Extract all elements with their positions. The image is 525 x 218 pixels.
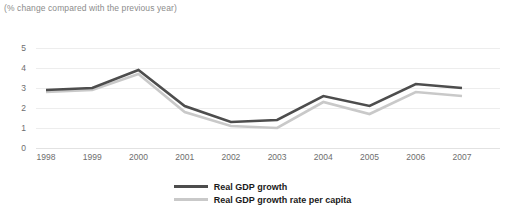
x-axis-tick-label: 2007 [453, 152, 472, 162]
x-axis-tick-label: 2005 [360, 152, 379, 162]
legend-item-label: Real GDP growth [214, 182, 287, 192]
x-axis-tick-label: 2004 [314, 152, 333, 162]
y-axis-tick-label: 2 [21, 103, 26, 113]
x-axis-tick-label: 1998 [37, 152, 56, 162]
x-axis-tick-label: 2003 [268, 152, 287, 162]
x-axis: 1998199920002001200220032004200520062007 [0, 148, 525, 170]
x-axis-tick-label: 2000 [129, 152, 148, 162]
legend-item-label: Real GDP growth rate per capita [214, 195, 351, 205]
x-axis-ticks: 1998199920002001200220032004200520062007 [0, 148, 525, 170]
series-line [46, 70, 462, 122]
y-axis-tick-label: 4 [21, 63, 26, 73]
chart-legend: Real GDP growthReal GDP growth rate per … [0, 180, 525, 206]
line-swatch-icon [174, 185, 208, 188]
legend-item[interactable]: Real GDP growth rate per capita [174, 193, 351, 206]
x-axis-tick-label: 2002 [221, 152, 240, 162]
x-axis-tick-label: 1999 [83, 152, 102, 162]
y-axis-tick-label: 3 [21, 83, 26, 93]
y-axis-tick-label: 5 [21, 43, 26, 53]
line-chart: 543210 [0, 20, 525, 152]
chart-subtitle: (% change compared with the previous yea… [4, 3, 177, 13]
plot-area: 543210 [0, 20, 525, 152]
y-axis-tick-label: 1 [21, 123, 26, 133]
x-axis-tick-label: 2006 [406, 152, 425, 162]
legend-item[interactable]: Real GDP growth [174, 180, 351, 193]
line-swatch-icon [174, 198, 208, 201]
x-axis-tick-label: 2001 [175, 152, 194, 162]
legend-rows: Real GDP growthReal GDP growth rate per … [174, 180, 351, 206]
